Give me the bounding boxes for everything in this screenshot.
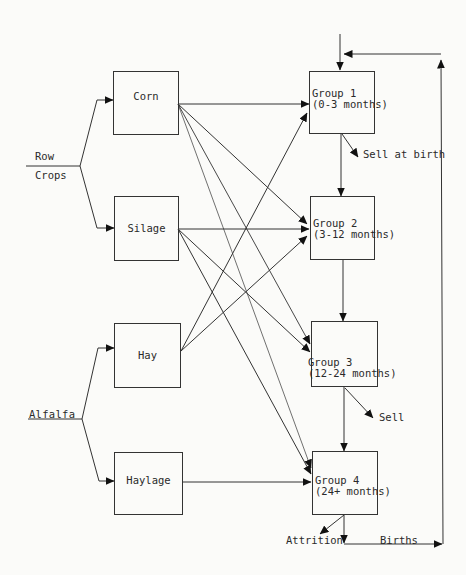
group3-label: Group 3 (12-24 months) [308, 357, 397, 379]
group2-label: Group 2 (3-12 months) [313, 218, 395, 240]
row-crops-to-corn [80, 100, 113, 166]
sell-at-birth-label: Sell at birth [363, 149, 445, 160]
corn-box[interactable]: Corn [113, 71, 179, 135]
group4-label: Group 4 (24+ months) [315, 475, 391, 497]
flow-connectors [0, 0, 466, 575]
haylage-box[interactable]: Haylage [114, 452, 183, 515]
group3-box[interactable]: Group 3 (12-24 months) [311, 321, 378, 387]
hay-box[interactable]: Hay [114, 323, 181, 388]
row-crops-label-line1: Row [35, 151, 54, 162]
row-crops-to-silage [80, 166, 114, 228]
alfalfa-label: Alfalfa [29, 409, 75, 420]
corn-label: Corn [133, 91, 158, 102]
group1-box[interactable]: Group 1 (0-3 months) [309, 71, 375, 134]
silage-box[interactable]: Silage [114, 196, 179, 261]
births-label: Births [380, 535, 418, 546]
sell-label: Sell [379, 412, 404, 423]
attrition-label: Attrition [286, 535, 343, 546]
alfalfa-to-hay [82, 348, 114, 419]
group1-label: Group 1 (0-3 months) [312, 88, 388, 110]
hay-label: Hay [138, 350, 157, 361]
alfalfa-to-haylage [82, 419, 114, 481]
row-crops-label-line2: Crops [35, 170, 67, 181]
group2-box[interactable]: Group 2 (3-12 months) [310, 196, 375, 260]
group4-box[interactable]: Group 4 (24+ months) [312, 451, 378, 515]
silage-label: Silage [128, 223, 166, 234]
haylage-label: Haylage [126, 475, 170, 486]
